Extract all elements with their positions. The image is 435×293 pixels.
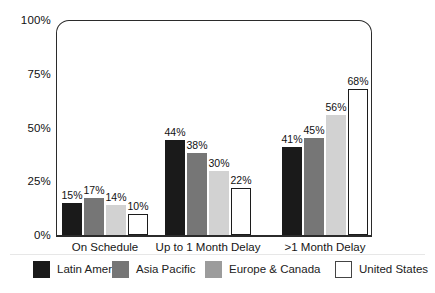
bar-value-label: 56% [325,101,346,114]
legend-swatch [335,261,352,278]
bar [304,138,324,235]
bar-value-label: 68% [347,75,368,88]
y-axis-tick-label: 100% [0,13,51,27]
legend-label: United States [359,261,428,278]
bar [84,198,104,235]
legend-swatch [205,261,222,278]
bar-value-label: 38% [186,139,207,152]
bar [282,147,302,235]
bar-value-label: 17% [83,184,104,197]
bar-value-label: 44% [164,126,185,139]
legend-divider [10,254,425,255]
bar-value-label: 10% [127,200,148,213]
y-axis-tick-label: 25% [0,174,51,188]
legend-swatch [112,261,129,278]
bar [209,171,229,236]
bar [62,203,82,235]
bar [187,153,207,235]
bar-value-label: 30% [208,157,229,170]
x-axis-category-label: On Schedule [72,240,139,254]
legend-swatch [33,261,50,278]
x-axis-category-label: >1 Month Delay [285,240,366,254]
y-axis-tick-label: 0% [0,228,51,242]
legend-label: Europe & Canada [229,261,320,278]
bar [128,214,148,236]
bar [231,188,251,235]
bar-value-label: 15% [61,189,82,202]
legend-label: Asia Pacific [136,261,195,278]
x-axis-category-label: Up to 1 Month Delay [156,240,261,254]
bar-value-label: 22% [230,174,251,187]
bar [165,140,185,235]
bar [348,89,368,235]
shipment-delay-bar-chart: 100%75%50%25%0% 15%17%14%10%44%38%30%22%… [0,0,435,293]
bar [106,205,126,235]
bar [326,115,346,235]
bar-value-label: 41% [281,133,302,146]
y-axis-tick-label: 75% [0,67,51,81]
y-axis-tick-label: 50% [0,121,51,135]
bar-value-label: 45% [303,124,324,137]
bar-value-label: 14% [105,191,126,204]
